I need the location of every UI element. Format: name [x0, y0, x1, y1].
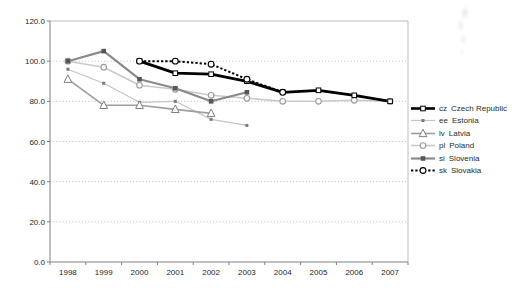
x-axis-label: 1999: [95, 268, 113, 277]
x-axis-label: 2003: [238, 268, 256, 277]
marker-cz-open-square: [173, 71, 178, 76]
marker-ee-filled-square: [245, 124, 248, 127]
y-axis-label: 20.0: [29, 218, 45, 227]
legend-item-code: pl: [439, 141, 445, 150]
marker-ee-filled-square: [210, 118, 213, 121]
legend-item-code: sk: [439, 166, 447, 175]
marker-ee-filled-square: [102, 82, 105, 85]
legend-item-si: si Slovenia: [410, 152, 507, 165]
legend-item-sk: sk Slovakia: [410, 165, 507, 178]
legend-item-code: si: [439, 154, 445, 163]
legend-item-label: Poland: [449, 141, 474, 150]
x-axis-label: 2007: [381, 268, 399, 277]
x-axis-label: 2005: [310, 268, 328, 277]
series-markers-cz: [137, 59, 392, 104]
y-axis-label: 80.0: [29, 97, 45, 106]
legend-item-label: Slovenia: [449, 154, 480, 163]
series-line-ee: [68, 69, 247, 125]
legend-item-cz: cz Czech Republic: [410, 102, 507, 115]
marker-si-filled-square: [101, 49, 106, 54]
x-axis-label: 2004: [274, 268, 292, 277]
legend-item-lv: lv Latvia: [410, 127, 507, 140]
marker-si-filled-square: [137, 77, 142, 82]
x-axis-label: 2000: [131, 268, 149, 277]
series-line-pl: [68, 61, 390, 101]
legend-sample-lv: [410, 128, 436, 139]
marker-pl-open-circle: [280, 99, 286, 105]
legend-item-code: lv: [439, 129, 445, 138]
marker-sk-open-circle: [208, 61, 214, 67]
marker-pl-open-circle: [316, 99, 322, 105]
screenshot-root: { "chart_data": { "type": "line", "title…: [0, 0, 524, 295]
marker-si-filled-square: [209, 99, 214, 104]
y-axis-label: 100.0: [25, 57, 46, 66]
x-axis-label: 2002: [202, 268, 220, 277]
legend-item-label: Slovakia: [451, 166, 481, 175]
marker-si-filled-square: [173, 86, 178, 91]
marker-pl-open-circle: [137, 82, 143, 88]
y-axis-label: 120.0: [25, 17, 46, 26]
legend-item-code: ee: [439, 116, 448, 125]
legend-sample-cz: [410, 103, 436, 114]
marker-sk-open-circle: [244, 76, 250, 82]
marker-lv-open-triangle: [64, 75, 72, 82]
legend-item-label: Latvia: [449, 129, 470, 138]
marker-cz-open-square: [421, 106, 426, 111]
marker-pl-open-circle: [244, 96, 250, 102]
marker-sk-open-circle: [280, 89, 286, 95]
y-axis-label: 40.0: [29, 178, 45, 187]
marker-sk-open-circle: [172, 58, 178, 64]
marker-cz-open-square: [316, 88, 321, 93]
legend-sample-si: [410, 153, 436, 164]
marker-pl-open-circle: [101, 64, 107, 70]
y-axis-label: 0.0: [34, 258, 46, 267]
marker-cz-open-square: [209, 72, 214, 77]
line-chart: 0.020.040.060.080.0100.0120.019981999200…: [0, 0, 524, 295]
chart-legend: cz Czech Republic ee Estonia lv Latvia p…: [410, 102, 507, 177]
marker-pl-open-circle: [208, 93, 214, 99]
legend-item-ee: ee Estonia: [410, 115, 507, 128]
marker-pl-open-circle: [420, 143, 426, 149]
legend-item-label: Czech Republic: [451, 104, 507, 113]
marker-sk-open-circle: [137, 58, 143, 64]
marker-ee-filled-square: [66, 68, 69, 71]
marker-si-filled-square: [421, 156, 426, 161]
marker-cz-open-square: [352, 93, 357, 98]
y-axis-label: 60.0: [29, 138, 45, 147]
marker-ee-filled-square: [422, 119, 425, 122]
legend-item-label: Estonia: [452, 116, 479, 125]
legend-sample-ee: [410, 115, 436, 126]
legend-item-pl: pl Poland: [410, 140, 507, 153]
marker-sk-open-circle: [420, 168, 426, 174]
marker-pl-open-circle: [352, 98, 358, 104]
legend-sample-pl: [410, 140, 436, 151]
x-axis-label: 2006: [345, 268, 363, 277]
x-axis-label: 1998: [59, 268, 77, 277]
marker-cz-open-square: [388, 99, 393, 104]
marker-ee-filled-square: [174, 100, 177, 103]
marker-si-filled-square: [66, 59, 71, 64]
legend-sample-sk: [410, 165, 436, 176]
marker-si-filled-square: [245, 90, 250, 95]
x-axis-label: 2001: [166, 268, 184, 277]
legend-item-code: cz: [439, 104, 447, 113]
